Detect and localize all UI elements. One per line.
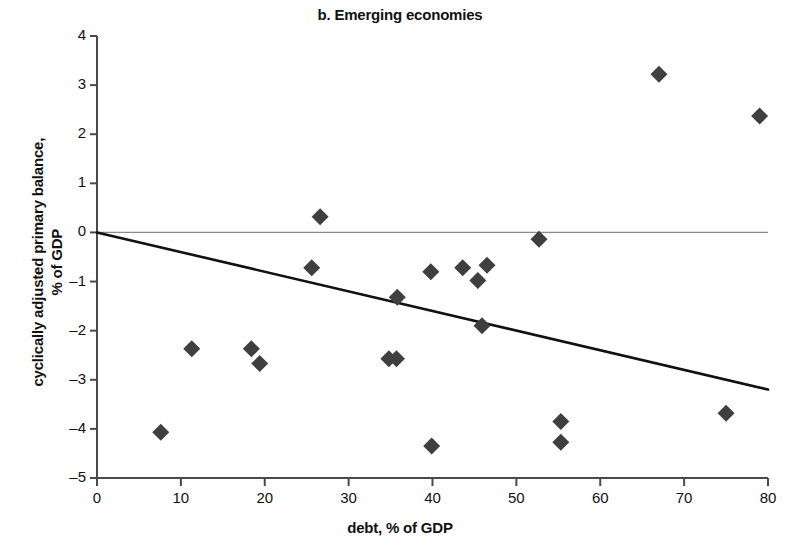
plot-area — [0, 0, 800, 554]
data-point-1 — [183, 340, 200, 357]
y-tick-label-7: –3 — [52, 370, 86, 387]
y-tick-label-2: 2 — [52, 124, 86, 141]
data-points — [152, 66, 768, 455]
x-tick-label-7: 70 — [664, 489, 704, 506]
data-point-3 — [251, 355, 268, 372]
y-tick-label-4: 0 — [52, 222, 86, 239]
y-tick-label-3: 1 — [52, 173, 86, 190]
data-point-13 — [479, 257, 496, 274]
y-tick-label-5: –1 — [52, 272, 86, 289]
y-tick-label-6: –2 — [52, 321, 86, 338]
data-point-18 — [650, 66, 667, 83]
x-tick-label-0: 0 — [77, 489, 117, 506]
x-tick-label-1: 10 — [161, 489, 201, 506]
y-tick-label-8: –4 — [52, 419, 86, 436]
axes — [90, 36, 768, 486]
data-point-5 — [303, 259, 320, 276]
data-point-17 — [552, 434, 569, 451]
x-tick-label-2: 20 — [245, 489, 285, 506]
y-tick-label-0: 4 — [52, 26, 86, 43]
chart-figure: b. Emerging economies cyclically adjuste… — [0, 0, 800, 554]
data-point-15 — [531, 231, 548, 248]
regression-line — [97, 232, 768, 389]
y-tick-label-1: 3 — [52, 75, 86, 92]
x-tick-label-4: 40 — [413, 489, 453, 506]
data-point-9 — [422, 263, 439, 280]
data-point-10 — [423, 438, 440, 455]
data-point-12 — [469, 272, 486, 289]
data-point-14 — [473, 317, 490, 334]
y-tick-label-9: –5 — [52, 468, 86, 485]
data-point-2 — [243, 340, 260, 357]
data-point-0 — [152, 424, 169, 441]
data-point-20 — [751, 108, 768, 125]
x-tick-label-3: 30 — [329, 489, 369, 506]
data-point-16 — [552, 413, 569, 430]
trendline — [97, 232, 768, 389]
data-point-19 — [718, 405, 735, 422]
x-tick-label-8: 80 — [748, 489, 788, 506]
data-point-11 — [454, 259, 471, 276]
x-tick-label-5: 50 — [496, 489, 536, 506]
x-tick-label-6: 60 — [580, 489, 620, 506]
data-point-4 — [312, 208, 329, 225]
